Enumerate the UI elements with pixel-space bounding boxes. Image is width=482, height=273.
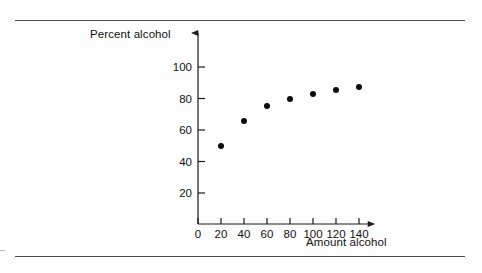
x-tick-label: 120 [326, 228, 345, 240]
y-tick-label: 80 [179, 93, 192, 105]
y-tick-label: 100 [173, 61, 192, 73]
data-point [241, 118, 247, 124]
x-tick-label: 60 [261, 228, 274, 240]
x-tick-label: 140 [349, 228, 368, 240]
data-point [218, 143, 224, 149]
y-tick-label: 40 [179, 156, 192, 168]
x-axis-tick-marks [198, 218, 359, 224]
y-tick-label: 20 [179, 187, 192, 199]
x-tick-label: 20 [215, 228, 228, 240]
x-tick-label: 40 [238, 228, 251, 240]
x-tick-label: 80 [284, 228, 297, 240]
data-point [356, 84, 362, 90]
data-point [310, 91, 316, 97]
y-axis-tick-marks [198, 67, 205, 193]
data-point [333, 87, 339, 93]
y-tick-label: 60 [179, 124, 192, 136]
figure-panel: Percent alcohol Amount alcohol 20 40 60 … [0, 0, 482, 273]
y-axis-label: Percent alcohol [90, 28, 171, 40]
x-tick-label: 0 [195, 228, 201, 240]
x-tick-label: 100 [303, 228, 322, 240]
data-point [287, 96, 293, 102]
data-point [264, 103, 270, 109]
